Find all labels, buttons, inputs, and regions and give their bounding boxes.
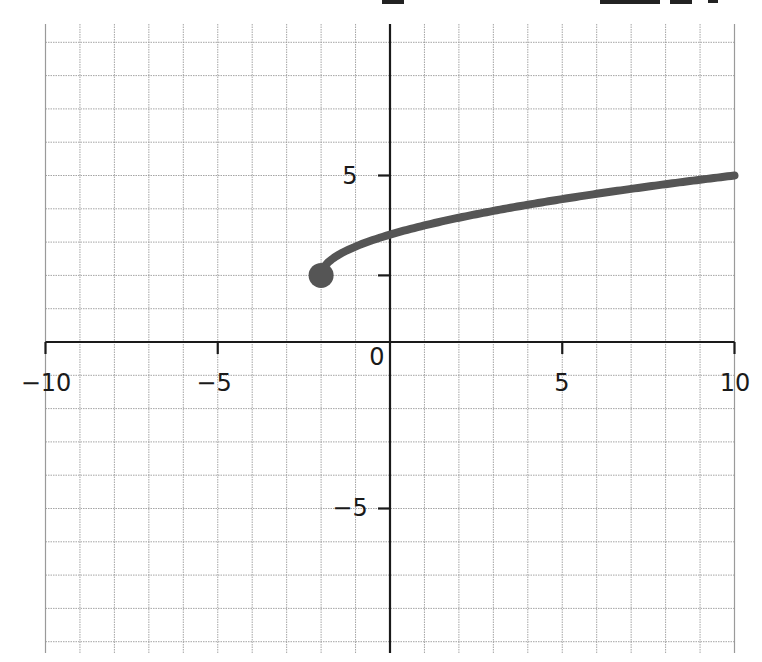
cropped-title [382,0,718,4]
closed-endpoint-dot [309,263,334,288]
x-tick-label-neg10: −10 [21,369,72,397]
y-tick-label-neg5: −5 [332,494,367,522]
function-graph: −10 −5 0 5 10 5 −5 [0,0,762,662]
x-tick-label-neg5: −5 [196,369,231,397]
origin-label: 0 [369,343,384,371]
x-tick-label-5: 5 [554,369,569,397]
x-tick-label-10: 10 [720,369,751,397]
axes [46,24,735,653]
y-tick-label-5: 5 [342,162,357,190]
function-curve [309,176,735,288]
